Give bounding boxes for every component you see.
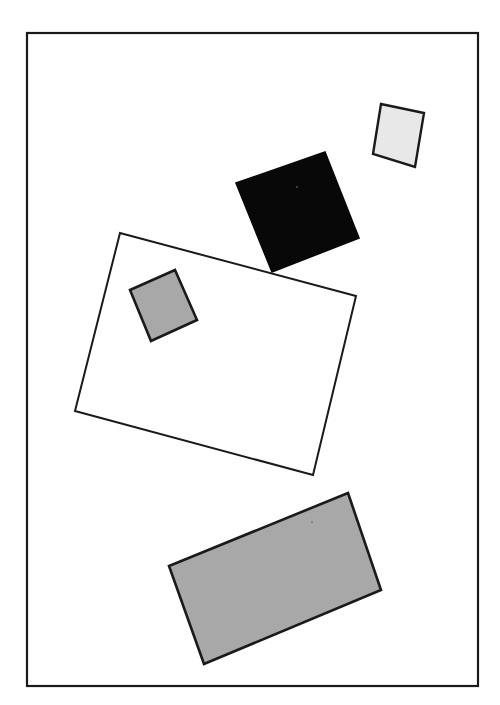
speck-black-square <box>296 186 298 188</box>
light-square <box>373 104 424 167</box>
speck-gray-rectangle <box>311 521 313 523</box>
figure-svg <box>0 0 500 705</box>
figure-canvas <box>0 0 500 705</box>
